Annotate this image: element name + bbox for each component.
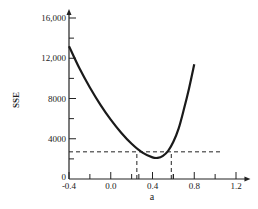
x-tick-label: 0.4 xyxy=(147,181,159,191)
y-axis-arrow-icon xyxy=(67,9,72,15)
axes: -0.40.00.40.81.204000800012,00016,000 xyxy=(41,9,250,191)
sse-curve xyxy=(69,46,194,158)
y-tick-label: 4000 xyxy=(48,134,67,144)
x-tick-label: 0.8 xyxy=(189,181,201,191)
y-axis-label: SSE xyxy=(11,92,21,108)
sse-chart: -0.40.00.40.81.204000800012,00016,000 a … xyxy=(0,0,258,209)
y-tick-label: 0 xyxy=(62,172,67,182)
x-tick-label: -0.4 xyxy=(62,181,77,191)
x-tick-label: 0.0 xyxy=(105,181,117,191)
dashed-reference-lines xyxy=(69,152,222,179)
y-tick-label: 12,000 xyxy=(41,53,66,63)
x-tick-label: 1.2 xyxy=(230,181,241,191)
plot-area: -0.40.00.40.81.204000800012,00016,000 a … xyxy=(0,0,258,209)
x-axis-arrow-icon xyxy=(244,177,250,182)
y-tick-label: 16,000 xyxy=(41,13,66,23)
y-tick-label: 8000 xyxy=(48,94,67,104)
x-axis-label: a xyxy=(150,191,155,202)
